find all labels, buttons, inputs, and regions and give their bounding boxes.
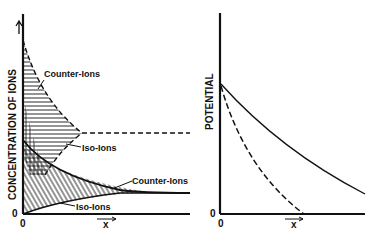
leader-line bbox=[66, 144, 81, 147]
counter-ions-top-label: Counter-Ions bbox=[44, 69, 100, 79]
left-plot: CONCENTRATION OF IONS Counter-Ions Iso-I… bbox=[7, 14, 190, 230]
iso-ions-bottom-label: Iso-Ions bbox=[76, 202, 111, 212]
left-origin-x: 0 bbox=[20, 218, 26, 229]
counter-ions-bottom-label: Counter-Ions bbox=[132, 176, 188, 186]
right-xlabel: x bbox=[291, 219, 297, 230]
left-xlabel: x bbox=[103, 219, 109, 230]
right-ylabel: POTENTIAL bbox=[204, 73, 215, 130]
potential-dashed-curve bbox=[221, 86, 304, 214]
iso-ions-top-label: Iso-Ions bbox=[82, 143, 117, 153]
leader-line bbox=[60, 203, 75, 206]
right-origin-x: 0 bbox=[218, 218, 224, 229]
left-ylabel: CONCENTRATION OF IONS bbox=[7, 69, 18, 200]
right-plot: POTENTIAL 0 0 x bbox=[204, 13, 365, 230]
y-arrow-icon bbox=[16, 21, 22, 34]
right-origin-y: 0 bbox=[210, 208, 216, 219]
diagram-canvas: CONCENTRATION OF IONS Counter-Ions Iso-I… bbox=[0, 0, 376, 241]
left-origin-y: 0 bbox=[12, 208, 18, 219]
potential-solid-curve bbox=[221, 84, 365, 194]
